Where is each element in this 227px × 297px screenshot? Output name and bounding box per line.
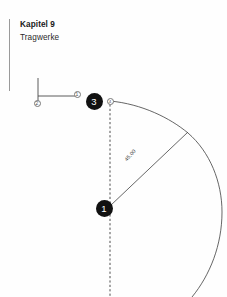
page-canvas: Kapitel 9 Tragwerke 2 1 3 4 1 45,00 — [0, 0, 227, 297]
marker-4-small[interactable]: 4 — [107, 98, 114, 105]
technical-drawing — [0, 0, 227, 297]
marker-3-label: 3 — [91, 96, 96, 107]
marker-1-small[interactable]: 1 — [74, 91, 81, 98]
sweep-arc — [110, 101, 222, 297]
marker-2-label: 2 — [36, 100, 39, 106]
marker-1-large[interactable]: 1 — [96, 200, 113, 217]
marker-1-small-label: 1 — [76, 91, 79, 97]
marker-3[interactable]: 3 — [86, 93, 103, 110]
marker-4-small-label: 4 — [109, 99, 111, 104]
marker-2[interactable]: 2 — [34, 100, 41, 107]
marker-1-large-label: 1 — [101, 203, 106, 214]
radius-line — [110, 132, 188, 206]
